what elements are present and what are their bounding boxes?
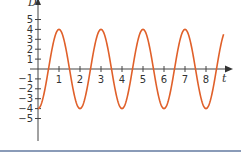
- x-tick-label: 4: [119, 74, 125, 85]
- y-tick-label: −5: [18, 113, 33, 124]
- x-tick-label: 8: [203, 74, 209, 85]
- x-tick-label: 5: [140, 74, 146, 85]
- x-tick-label: 1: [56, 74, 62, 85]
- x-tick-label: 2: [77, 74, 83, 85]
- y-tick-label: 1: [27, 54, 33, 65]
- bottom-divider: [0, 150, 241, 152]
- x-tick-label: 7: [182, 74, 188, 85]
- sinusoid-chart: 54321−1−2−3−4−5 12345678 D t: [0, 0, 241, 152]
- x-tick-label: 6: [161, 74, 167, 85]
- x-axis-label: t: [222, 72, 227, 85]
- y-axis-label: D: [27, 0, 37, 9]
- x-tick-label: 3: [98, 74, 104, 85]
